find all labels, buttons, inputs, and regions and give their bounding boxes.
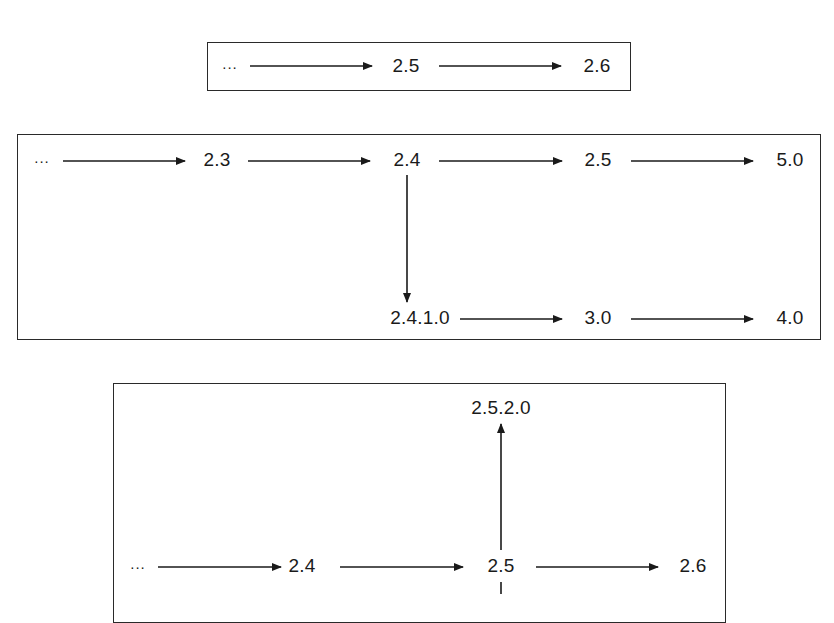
node-version-2.3: 2.3 <box>203 149 230 171</box>
node-version-2.5: 2.5 <box>584 149 611 171</box>
node-version-2.4.1.0: 2.4.1.0 <box>390 307 450 329</box>
node-version-2.6: 2.6 <box>583 55 610 77</box>
node-ellipsis: ... <box>222 53 238 75</box>
node-ellipsis: ... <box>34 147 50 169</box>
diagram-box-branch-up-down <box>113 383 726 623</box>
node-version-2.6: 2.6 <box>679 555 706 577</box>
node-ellipsis: ... <box>130 553 146 575</box>
node-version-4.0: 4.0 <box>776 307 803 329</box>
node-version-2.4: 2.4 <box>393 149 420 171</box>
node-version-2.4: 2.4 <box>288 555 315 577</box>
node-version-2.5.2.0: 2.5.2.0 <box>471 397 531 419</box>
node-version-5.0: 5.0 <box>776 149 803 171</box>
node-version-3.0: 3.0 <box>584 307 611 329</box>
node-version-2.5: 2.5 <box>487 555 514 577</box>
node-version-2.5: 2.5 <box>392 55 419 77</box>
